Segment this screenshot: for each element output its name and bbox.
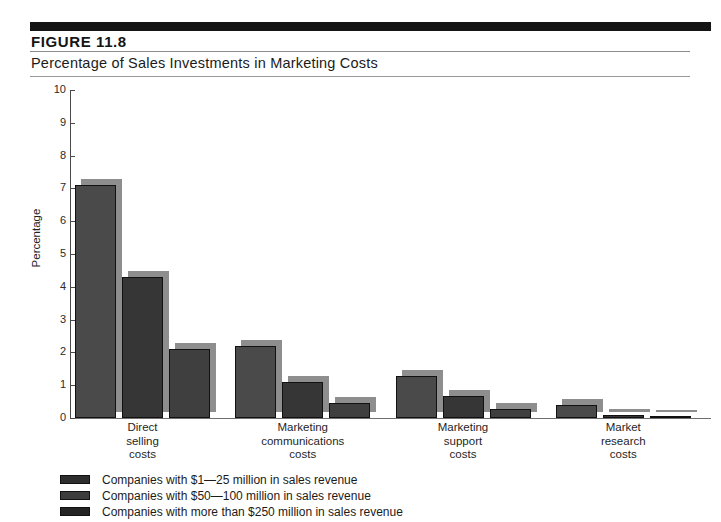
y-axis-tick-label-text: 5 [44, 248, 66, 259]
y-axis-tick-mark [70, 123, 75, 124]
y-axis-tick-label: 4 [40, 281, 66, 292]
legend-label: Companies with $50—100 million in sales … [102, 488, 371, 504]
y-axis-tick-mark [70, 90, 75, 91]
y-axis-tick-label-text: 8 [44, 150, 66, 161]
figure-container: FIGURE 11.8 Percentage of Sales Investme… [0, 0, 721, 522]
bar [603, 409, 650, 418]
bar-face [169, 349, 210, 418]
bar [650, 410, 697, 418]
bar-face [396, 376, 437, 418]
legend-swatch-icon [60, 475, 90, 484]
y-axis-tick-label: 8 [40, 150, 66, 161]
bar-shadow [609, 409, 650, 412]
bar [75, 179, 122, 418]
y-axis-tick-label: 7 [40, 182, 66, 193]
y-axis-tick-label: 9 [40, 117, 66, 128]
bar [235, 340, 282, 418]
y-axis-tick-label-text: 2 [44, 346, 66, 357]
bar-face [122, 277, 163, 418]
y-axis-title: Percentage [30, 193, 42, 283]
bar [490, 403, 537, 418]
y-axis-tick-label-text: 10 [44, 84, 66, 95]
bar [556, 399, 603, 418]
bar [329, 397, 376, 418]
bar-face [603, 415, 644, 418]
y-axis-tick-label-text: 7 [44, 182, 66, 193]
bar-face [329, 403, 370, 418]
y-axis-tick-label: 10 [40, 84, 66, 95]
y-axis-tick-mark [70, 418, 75, 419]
bar-face [235, 346, 276, 418]
bar-shadow [656, 410, 697, 412]
y-axis-tick-mark [70, 156, 75, 157]
y-axis-tick-label: 1 [40, 379, 66, 390]
legend-label: Companies with more than $250 million in… [102, 504, 403, 520]
bar [122, 271, 169, 418]
bar [443, 390, 490, 418]
y-axis-tick-label-text: 1 [44, 379, 66, 390]
x-axis-category-label-line: Market [516, 421, 721, 435]
bar [282, 376, 329, 418]
x-axis-category-label-line: research [516, 435, 721, 449]
y-axis-tick-label-text: 4 [44, 281, 66, 292]
chart-plot-area: Percentage 109876543210 Directsellingcos… [0, 0, 721, 522]
bar [169, 343, 216, 418]
x-axis-category-label-line: costs [516, 448, 721, 462]
legend-swatch-icon [60, 507, 90, 516]
x-axis-category-label: Marketresearchcosts [516, 421, 721, 462]
y-axis-tick-label: 2 [40, 346, 66, 357]
y-axis-tick-label: 3 [40, 314, 66, 325]
bar-face [556, 405, 597, 418]
legend-label: Companies with $1—25 million in sales re… [102, 472, 357, 488]
bar-face [650, 416, 691, 418]
y-axis-tick-label: 6 [40, 215, 66, 226]
y-axis-tick-label-text: 9 [44, 117, 66, 128]
y-axis-tick-label-text: 3 [44, 314, 66, 325]
bar-face [75, 185, 116, 418]
bar [396, 370, 443, 418]
x-axis-line [70, 418, 711, 419]
y-axis-tick-label-text: 6 [44, 215, 66, 226]
legend-swatch-icon [60, 491, 90, 500]
bar-face [282, 382, 323, 418]
bar-face [443, 396, 484, 418]
bar-face [490, 409, 531, 418]
y-axis-tick-label: 5 [40, 248, 66, 259]
